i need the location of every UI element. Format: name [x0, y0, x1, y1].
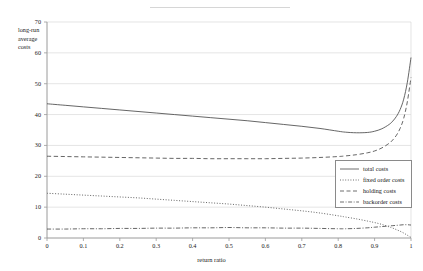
legend-label-holding-costs: holding costs	[363, 188, 396, 194]
x-tick-label: 0.6	[256, 242, 274, 249]
x-tick-label: 0.1	[74, 242, 92, 249]
x-tick-label: 0.7	[293, 242, 311, 249]
series-line-backorder-costs	[47, 225, 411, 229]
y-tick-label: 0	[25, 234, 41, 241]
legend-item-total-costs: total costs	[336, 163, 411, 174]
x-axis-label: return ratio	[0, 256, 423, 263]
y-tick-label: 10	[25, 203, 41, 210]
x-tick-label: 0.3	[147, 242, 165, 249]
x-tick-label: 0.9	[366, 242, 384, 249]
legend-item-holding-costs: holding costs	[336, 185, 411, 196]
x-tick-label: 0.2	[111, 242, 129, 249]
x-tick-label: 0.4	[184, 242, 202, 249]
legend-label-fixed-order-costs: fixed order costs	[363, 177, 404, 183]
plot-area	[0, 0, 423, 271]
x-tick-label: 0	[38, 242, 56, 249]
x-tick-label: 0.5	[220, 242, 238, 249]
y-tick-label: 20	[25, 172, 41, 179]
legend-label-total-costs: total costs	[363, 166, 388, 172]
x-tick-label: 0.8	[329, 242, 347, 249]
legend-swatch-solid-icon	[339, 165, 360, 173]
legend-item-backorder-costs: backorder costs	[336, 196, 411, 207]
chart-legend: total costs fixed order costs holding co…	[335, 160, 412, 208]
y-tick-label: 70	[25, 18, 41, 25]
x-tick-label: 1	[402, 242, 420, 249]
legend-swatch-dashed-icon	[339, 187, 360, 195]
y-tick-label: 60	[25, 49, 41, 56]
series-line-holding-costs	[47, 78, 411, 159]
legend-item-fixed-order-costs: fixed order costs	[336, 174, 411, 185]
chart-container: long-run average costs 010203040506070 0…	[0, 0, 423, 271]
legend-label-backorder-costs: backorder costs	[363, 199, 402, 205]
legend-swatch-dotted-icon	[339, 176, 360, 184]
y-tick-label: 40	[25, 111, 41, 118]
y-tick-label: 50	[25, 80, 41, 87]
y-tick-label: 30	[25, 141, 41, 148]
series-line-total-costs	[47, 57, 411, 132]
legend-swatch-dashdot-icon	[339, 198, 360, 206]
